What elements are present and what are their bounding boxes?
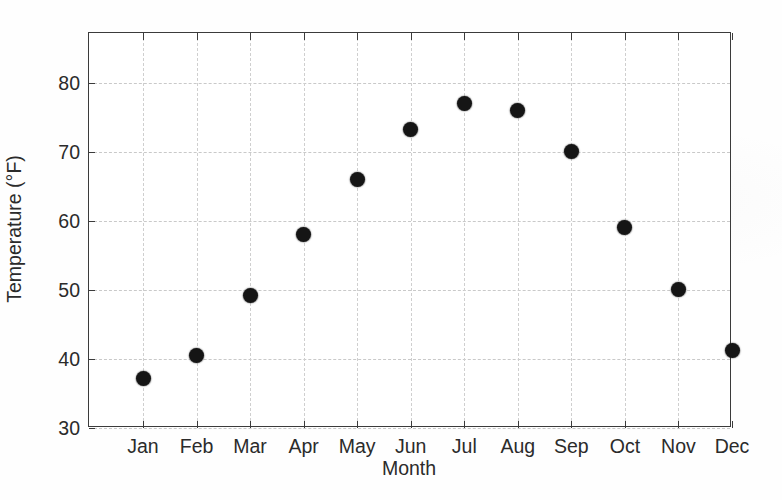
- scatter-point: [243, 288, 258, 303]
- x-axis-tick-top: [143, 33, 144, 40]
- y-axis-tick: [89, 152, 95, 153]
- x-axis-tick-top: [571, 33, 572, 40]
- x-gridline: [143, 33, 144, 426]
- y-gridline: [89, 428, 730, 429]
- x-axis-tick-label: Mar: [233, 435, 267, 458]
- x-axis-tick-top: [197, 33, 198, 40]
- y-axis-tick: [89, 83, 95, 84]
- x-axis-tick: [625, 421, 626, 428]
- scatter-point: [136, 371, 151, 386]
- x-axis-tick-top: [357, 33, 358, 40]
- x-axis-tick-label: Nov: [661, 435, 696, 458]
- x-axis-tick-top: [732, 33, 733, 40]
- x-axis-tick-label: Oct: [610, 435, 640, 458]
- x-axis-tick: [518, 421, 519, 428]
- x-axis-tick-label: Dec: [715, 435, 750, 458]
- scatter-point: [296, 227, 311, 242]
- y-axis-title: Temperature (°F): [3, 155, 26, 303]
- y-axis-tick-label: 80: [58, 71, 80, 94]
- x-axis-tick: [304, 421, 305, 428]
- chart-figure: Temperature (°F) Month 304050607080 JanF…: [0, 0, 782, 500]
- y-axis-tick-label: 40: [58, 347, 80, 370]
- scatter-point: [725, 343, 740, 358]
- x-axis-tick-top: [678, 33, 679, 40]
- x-axis-tick: [678, 421, 679, 428]
- x-axis-tick-label: Aug: [500, 435, 535, 458]
- x-gridline: [250, 33, 251, 426]
- x-gridline: [464, 33, 465, 426]
- x-gridline: [518, 33, 519, 426]
- x-gridline: [357, 33, 358, 426]
- scatter-point: [457, 96, 472, 111]
- x-axis-tick-label: Jul: [452, 435, 477, 458]
- x-axis-tick: [464, 421, 465, 428]
- y-axis-tick-label: 30: [58, 417, 80, 440]
- x-axis-tick-label: Sep: [554, 435, 589, 458]
- plot-area: 304050607080 JanFebMarAprMayJunJulAugSep…: [88, 32, 731, 427]
- scatter-point: [617, 220, 632, 235]
- x-gridline: [411, 33, 412, 426]
- x-axis-tick-top: [464, 33, 465, 40]
- x-gridline: [571, 33, 572, 426]
- x-axis-tick-top: [304, 33, 305, 40]
- y-axis-tick-label: 70: [58, 140, 80, 163]
- y-axis-tick: [89, 221, 95, 222]
- y-axis-tick-label: 50: [58, 278, 80, 301]
- x-axis-tick-top: [518, 33, 519, 40]
- scatter-point: [564, 144, 579, 159]
- x-axis-tick-top: [411, 33, 412, 40]
- x-gridline: [197, 33, 198, 426]
- x-axis-tick: [197, 421, 198, 428]
- x-axis-tick: [411, 421, 412, 428]
- x-axis-tick-label: Apr: [288, 435, 318, 458]
- scatter-point: [189, 348, 204, 363]
- x-axis-tick: [357, 421, 358, 428]
- y-axis-tick: [89, 428, 95, 429]
- x-axis-tick-label: Feb: [180, 435, 214, 458]
- x-axis-tick-label: Jan: [127, 435, 158, 458]
- y-gridline: [89, 359, 730, 360]
- y-gridline: [89, 290, 730, 291]
- x-axis-tick: [250, 421, 251, 428]
- x-axis-tick-label: Jun: [395, 435, 426, 458]
- x-axis-tick-top: [250, 33, 251, 40]
- y-gridline: [89, 221, 730, 222]
- y-axis-tick-label: 60: [58, 209, 80, 232]
- x-gridline: [678, 33, 679, 426]
- x-axis-tick: [571, 421, 572, 428]
- scatter-point: [671, 282, 686, 297]
- x-axis-tick: [732, 421, 733, 428]
- y-axis-tick: [89, 359, 95, 360]
- scatter-point: [510, 103, 525, 118]
- y-gridline: [89, 152, 730, 153]
- x-axis-tick-top: [625, 33, 626, 40]
- scatter-point: [403, 122, 418, 137]
- x-axis-tick-label: May: [339, 435, 376, 458]
- y-axis-tick: [89, 290, 95, 291]
- y-gridline: [89, 83, 730, 84]
- scatter-point: [350, 172, 365, 187]
- x-axis-title: Month: [382, 457, 436, 480]
- x-axis-tick: [143, 421, 144, 428]
